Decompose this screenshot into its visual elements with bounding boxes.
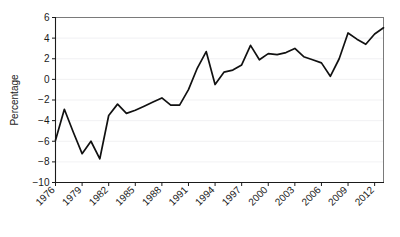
x-tick-label-1994: 1994	[193, 184, 217, 208]
y-axis-tick-labels-group: 6420−2−4−6−8−10	[33, 12, 50, 188]
y-tick-label-2: 2	[44, 53, 50, 64]
x-axis-tick-labels-group: 1976197919821985198819911994199720002003…	[33, 184, 376, 208]
x-tick-label-1982: 1982	[87, 184, 111, 208]
y-tick-label--4: −4	[38, 115, 50, 126]
x-tick-label-2012: 2012	[353, 184, 377, 208]
gridlines-group	[56, 18, 384, 183]
y-tick-label-0: 0	[44, 74, 50, 85]
y-axis-title: Percentage	[9, 74, 20, 126]
x-tick-label-2000: 2000	[246, 184, 270, 208]
y-tick-label--2: −2	[38, 94, 50, 105]
y-tick-label-4: 4	[44, 33, 50, 44]
y-tick-label-6: 6	[44, 12, 50, 23]
x-tick-label-2009: 2009	[326, 184, 350, 208]
x-tick-label-1988: 1988	[140, 184, 164, 208]
x-tick-label-1979: 1979	[60, 184, 84, 208]
x-tick-label-2003: 2003	[273, 184, 297, 208]
line-chart: 6420−2−4−6−8−10 197619791982198519881991…	[0, 0, 400, 237]
chart-container: 6420−2−4−6−8−10 197619791982198519881991…	[0, 0, 400, 237]
y-tick-label--8: −8	[38, 156, 50, 167]
x-tick-label-1985: 1985	[113, 184, 137, 208]
series-line-percentage	[56, 28, 384, 159]
x-tick-label-1997: 1997	[220, 184, 244, 208]
y-tick-label--6: −6	[38, 136, 50, 147]
x-tick-label-2006: 2006	[299, 184, 323, 208]
x-tick-label-1991: 1991	[166, 184, 190, 208]
